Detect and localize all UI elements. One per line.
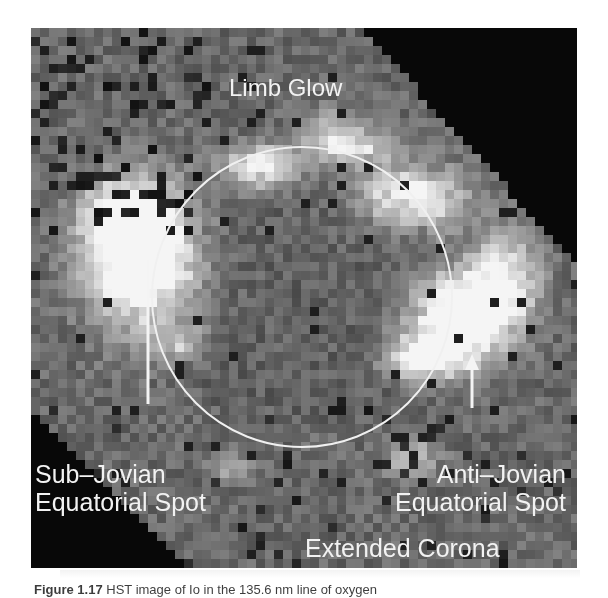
caption-bleed (60, 570, 580, 578)
anti-jovian-label-line-2: Equatorial Spot (395, 488, 566, 516)
anti-jovian-arrowhead-icon (465, 354, 479, 370)
figure-caption: Figure 1.17 HST image of Io in the 135.6… (34, 582, 377, 598)
caption-text: HST image of Io in the 135.6 nm line of … (103, 582, 377, 597)
anti-jovian-label-line-1: Anti–Jovian (395, 460, 566, 488)
extended-corona-label: Extended Corona (305, 534, 500, 562)
figure-number: Figure 1.17 (34, 582, 103, 597)
sub-jovian-spot-label: Sub–Jovian Equatorial Spot (35, 460, 206, 516)
sub-jovian-label-line-1: Sub–Jovian (35, 460, 206, 488)
limb-glow-label: Limb Glow (229, 74, 342, 102)
io-disk-outline (152, 147, 452, 447)
anti-jovian-spot-label: Anti–Jovian Equatorial Spot (395, 460, 566, 516)
sub-jovian-label-line-2: Equatorial Spot (35, 488, 206, 516)
io-emission-image: Limb Glow Sub–Jovian Equatorial Spot Ant… (31, 28, 577, 568)
